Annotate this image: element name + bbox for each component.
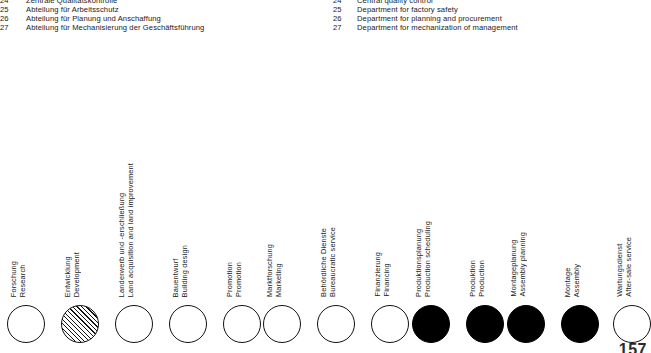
process-node-label-en: Assembly planning xyxy=(518,232,527,297)
process-node-circle-none[interactable] xyxy=(317,305,355,343)
process-node-label: EntwicklungDevelopment xyxy=(63,252,81,297)
process-node-circle-none[interactable] xyxy=(169,305,207,343)
process-node-label-en: Financing xyxy=(382,252,391,297)
process-node-label: BauentwurfBuilding design xyxy=(171,245,189,297)
process-node-circle-solid[interactable] xyxy=(561,305,599,343)
process-node-circle-none[interactable] xyxy=(7,305,45,343)
process-node-label: ProduktionProduction xyxy=(468,260,486,297)
process-node-label: WartungsdienstAfter-sale service xyxy=(615,237,633,297)
page-number: 157 xyxy=(619,341,647,353)
process-node-label: Behördliche DiensteBureaucratic service xyxy=(319,227,337,297)
process-node-label-de: Forschung xyxy=(9,261,18,297)
process-node-label: MarktforschungMarketing xyxy=(265,244,283,297)
process-node-label: FinanzierungFinancing xyxy=(373,252,391,297)
process-node-label-de: Landerwerb und -erschließung xyxy=(117,163,126,297)
process-node-label: Landerwerb und -erschließungLand acquisi… xyxy=(117,163,135,297)
process-node-label-de: Montageplanung xyxy=(509,232,518,297)
process-chain: ForschungResearchEntwicklungDevelopmentL… xyxy=(0,0,651,353)
process-node-circle-none[interactable] xyxy=(223,305,261,343)
process-node-label-en: Building design xyxy=(180,245,189,297)
process-node-label-en: Assembly xyxy=(572,264,581,297)
process-node-label-de: Produktion xyxy=(468,260,477,297)
process-node-label-de: Behördliche Dienste xyxy=(319,227,328,297)
process-node-label-de: Produktionsplanung xyxy=(414,221,423,297)
process-node-label: ProduktionsplanungProduction scheduling xyxy=(414,221,432,297)
process-node-label-de: Montage xyxy=(563,264,572,297)
process-node-label-en: Bureaucratic service xyxy=(328,227,337,297)
process-node-label: PromotionPromotion xyxy=(225,262,243,297)
diagram-page: 24 Zentrale Qualitätskontrolle 25 Abteil… xyxy=(0,0,651,353)
process-node-label-en: Promotion xyxy=(234,262,243,297)
process-node-label-en: After-sale service xyxy=(624,237,633,297)
process-node-label-de: Marktforschung xyxy=(265,244,274,297)
process-node-circle-solid[interactable] xyxy=(466,305,504,343)
process-node-label-de: Promotion xyxy=(225,262,234,297)
process-node-label-de: Wartungsdienst xyxy=(615,237,624,297)
process-node-circle-none[interactable] xyxy=(115,305,153,343)
process-node-circle-none[interactable] xyxy=(371,305,409,343)
process-node-label-en: Research xyxy=(18,261,27,297)
process-node-label-de: Bauentwurf xyxy=(171,245,180,297)
process-node-circle-none[interactable] xyxy=(263,305,301,343)
process-node-label-en: Marketing xyxy=(274,244,283,297)
process-node-circle-solid[interactable] xyxy=(507,305,545,343)
process-node-label-de: Finanzierung xyxy=(373,252,382,297)
process-node-label-en: Production scheduling xyxy=(423,221,432,297)
process-node-label-de: Entwicklung xyxy=(63,252,72,297)
process-node-circle-none[interactable] xyxy=(613,305,651,343)
process-node-label-en: Development xyxy=(72,252,81,297)
process-node-label-en: Production xyxy=(477,260,486,297)
process-node-label-en: Land acquisition and land improvement xyxy=(126,163,135,297)
process-node-label: MontageAssembly xyxy=(563,264,581,297)
process-node-circle-solid[interactable] xyxy=(412,305,450,343)
process-node-label: ForschungResearch xyxy=(9,261,27,297)
process-node-circle-hatched[interactable] xyxy=(61,305,99,343)
process-node-label: MontageplanungAssembly planning xyxy=(509,232,527,297)
